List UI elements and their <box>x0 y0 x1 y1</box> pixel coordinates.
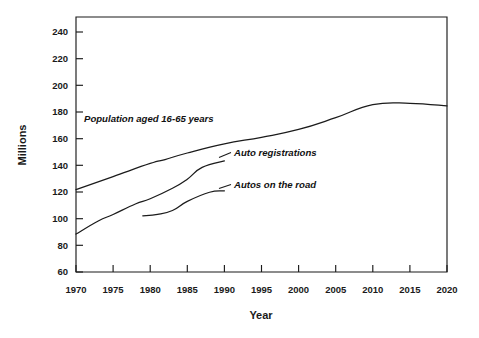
x-tick-label: 1990 <box>214 284 235 295</box>
y-tick-label: 100 <box>52 213 68 224</box>
x-tick-label: 1995 <box>251 284 273 295</box>
x-axis-tick-labels: 1970 1975 1980 1985 1990 1995 2000 2005 … <box>65 284 457 295</box>
series-line-autos-on-the-road <box>143 191 225 216</box>
leader-line-auto-registrations <box>219 153 231 158</box>
x-axis-ticks <box>76 265 447 272</box>
y-tick-label: 120 <box>52 186 68 197</box>
y-tick-label: 160 <box>52 133 68 144</box>
y-tick-label: 140 <box>52 160 68 171</box>
x-tick-label: 2015 <box>399 284 421 295</box>
y-tick-label: 200 <box>52 80 68 91</box>
leader-line-autos-on-the-road <box>219 185 231 189</box>
y-tick-label: 220 <box>52 53 68 64</box>
y-axis-title: Millions <box>16 125 28 166</box>
chart-figure: 60 80 100 120 140 160 180 200 220 240 Mi… <box>0 0 479 338</box>
x-axis-title: Year <box>249 309 273 321</box>
x-tick-label: 2010 <box>362 284 383 295</box>
y-tick-label: 240 <box>52 26 68 37</box>
series-label-autos-on-the-road: Autos on the road <box>233 179 317 190</box>
x-tick-label: 1975 <box>103 284 125 295</box>
x-tick-label: 2005 <box>325 284 347 295</box>
y-tick-label: 80 <box>57 240 68 251</box>
series-annotations: Population aged 16-65 years Auto registr… <box>84 113 317 190</box>
y-axis-tick-labels: 60 80 100 120 140 160 180 200 220 240 <box>52 26 68 277</box>
y-tick-label: 60 <box>57 266 68 277</box>
x-tick-label: 2020 <box>436 284 457 295</box>
x-tick-label: 2000 <box>288 284 309 295</box>
x-tick-label: 1970 <box>65 284 86 295</box>
series-label-auto-registrations: Auto registrations <box>233 147 317 158</box>
plot-frame <box>76 17 447 272</box>
x-tick-label: 1980 <box>140 284 161 295</box>
x-tick-label: 1985 <box>177 284 199 295</box>
series-line-auto-registrations <box>76 161 224 234</box>
y-axis-ticks <box>76 32 83 272</box>
y-tick-label: 180 <box>52 106 68 117</box>
series-label-population: Population aged 16-65 years <box>84 113 214 124</box>
line-chart: 60 80 100 120 140 160 180 200 220 240 Mi… <box>0 0 479 338</box>
